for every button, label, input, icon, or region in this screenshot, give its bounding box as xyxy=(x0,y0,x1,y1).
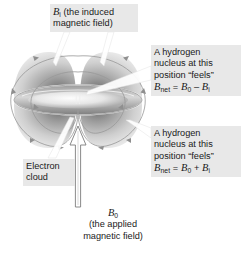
applied-field-line1: (the applied xyxy=(89,219,137,229)
electron-cloud-line2: cloud xyxy=(26,172,48,182)
hydrogen-minus-line3: position “feels” xyxy=(154,70,214,80)
label-induced-field: Bi (the induced magnetic field) xyxy=(50,4,138,32)
induced-field-subscript: i xyxy=(59,11,61,18)
hydrogen-plus-line2: nucleus at this xyxy=(154,139,213,149)
hydrogen-plus-equation: Bnet = B0 + Bi xyxy=(154,163,210,173)
hydrogen-minus-equation: Bnet = B0 – Bi xyxy=(154,82,210,92)
label-applied-field: B0 (the applied magnetic field) xyxy=(48,207,178,242)
hydrogen-minus-line2: nucleus at this xyxy=(154,58,213,68)
induced-field-text: (the induced xyxy=(63,7,114,17)
hydrogen-minus-line1: A hydrogen xyxy=(154,47,200,57)
label-hydrogen-deshielded: A hydrogen nucleus at this position “fee… xyxy=(151,126,241,177)
induced-field-text-2: magnetic field) xyxy=(53,18,113,28)
applied-field-subscript: 0 xyxy=(114,212,118,219)
applied-field-line2: magnetic field) xyxy=(83,231,143,241)
figure-canvas: Bi (the induced magnetic field) A hydrog… xyxy=(0,0,243,255)
electron-cloud-line1: Electron xyxy=(26,161,60,171)
label-hydrogen-shielded: A hydrogen nucleus at this position “fee… xyxy=(151,45,241,96)
hydrogen-plus-line1: A hydrogen xyxy=(154,128,200,138)
hydrogen-plus-line3: position “feels” xyxy=(154,151,214,161)
label-electron-cloud: Electron cloud xyxy=(23,159,75,186)
